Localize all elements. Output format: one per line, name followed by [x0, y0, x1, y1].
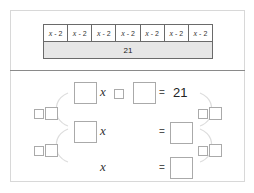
left-step-operator-box[interactable]	[34, 146, 44, 156]
right-step-value-box[interactable]	[209, 144, 222, 157]
rhs-box[interactable]	[170, 157, 193, 179]
rhs-box[interactable]	[170, 122, 193, 144]
coefficient-box[interactable]	[74, 121, 97, 143]
equals-sign: =	[159, 162, 165, 173]
right-step-operator-box[interactable]	[198, 146, 208, 156]
variable-x: x	[100, 123, 106, 139]
right-step-value-box[interactable]	[209, 107, 222, 120]
equals-sign: =	[159, 87, 165, 98]
constant-box[interactable]	[133, 82, 156, 104]
variable-x: x	[100, 159, 106, 175]
coefficient-box[interactable]	[74, 82, 97, 104]
right-step-operator-box[interactable]	[198, 109, 208, 119]
rhs-value: 21	[173, 85, 187, 100]
left-step-operator-box[interactable]	[34, 109, 44, 119]
left-step-value-box[interactable]	[45, 107, 58, 120]
left-step-value-box[interactable]	[45, 144, 58, 157]
variable-x: x	[100, 84, 106, 100]
step-arrows	[0, 0, 254, 193]
equals-sign: =	[159, 126, 165, 137]
operator-box[interactable]	[114, 89, 124, 99]
